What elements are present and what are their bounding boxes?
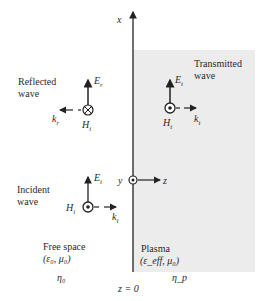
boundary-label: z = 0 — [118, 283, 139, 294]
Hr-into-page-icon — [83, 105, 93, 115]
Ht-out-icon — [165, 103, 175, 113]
Hr-label: Hi — [82, 119, 91, 135]
transmitted-title-2: wave — [194, 70, 215, 81]
Hi-out-icon — [83, 202, 93, 212]
incident-title-2: wave — [17, 196, 38, 207]
kr-label: kr — [52, 113, 59, 129]
free-space-params: (ε₀, μ₀) — [43, 253, 71, 264]
plasma-params: (ε_eff, μ₀) — [140, 255, 179, 266]
x-axis-label: x — [117, 14, 121, 25]
reflected-title: Reflected — [18, 76, 56, 87]
reflected-title-2: wave — [18, 88, 39, 99]
plasma-impedance: η_p — [172, 272, 187, 283]
diagram-lines — [0, 0, 265, 301]
plasma-label: Plasma — [141, 243, 170, 254]
Ei-label: Ei — [94, 172, 102, 188]
kt-label: kt — [194, 113, 200, 129]
ki-label: ki — [112, 211, 118, 227]
y-axis-label: y — [118, 175, 122, 186]
free-space-impedance: η₀ — [57, 272, 65, 283]
Hi-label: Hi — [66, 202, 75, 218]
incident-title: Incident — [17, 184, 50, 195]
z-axis-label: z — [163, 175, 167, 186]
Er-label: Er — [94, 75, 103, 91]
origin-y-out-icon — [129, 176, 137, 184]
Ht-label: Ht — [163, 117, 172, 133]
transmitted-title: Transmitted — [194, 58, 242, 69]
free-space-label: Free space — [43, 241, 85, 252]
Et-label: Et — [175, 74, 183, 90]
